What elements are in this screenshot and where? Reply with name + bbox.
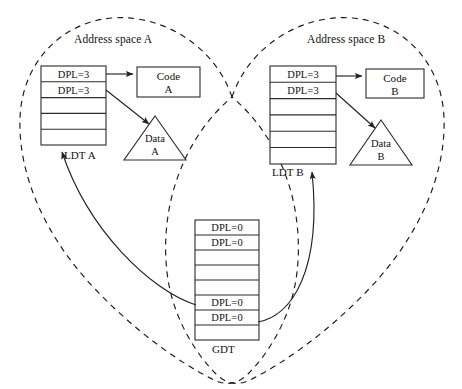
code-a-label-line2: A (137, 83, 200, 96)
gdt-row-1: DPL=0 (195, 237, 259, 248)
code-a-label-line1: Code (137, 70, 200, 83)
gdt-row-0: DPL=0 (195, 222, 259, 233)
arrow-gdt-ldtb (258, 172, 314, 322)
data-b-label-line2: B (351, 151, 411, 163)
address-space-b-title: Address space B (307, 33, 385, 45)
gdt-row-6: DPL=0 (195, 312, 259, 323)
data-a-label-line2: A (125, 146, 185, 158)
gdt-label: GDT (212, 344, 235, 356)
ldt-a-row-0: DPL=3 (41, 69, 106, 80)
code-b-label-line1: Code (366, 72, 424, 85)
ldt-b-label: LDT B (272, 167, 304, 179)
data-a-label-line1: Data (125, 133, 185, 145)
segmentation-diagram: Address space A Address space B DPL=3 DP… (0, 0, 462, 389)
ldt-a-label: LDT A (64, 150, 96, 162)
diagram-canvas (0, 0, 462, 389)
ldt-b-table (270, 66, 336, 164)
arrow-gdt-ldta (62, 152, 196, 305)
ldt-b-row-0: DPL=3 (270, 69, 336, 80)
address-space-a-title: Address space A (74, 33, 152, 45)
gdt-row-5: DPL=0 (195, 297, 259, 308)
ldt-a-row-1: DPL=3 (41, 85, 106, 96)
code-b-label-line2: B (366, 85, 424, 98)
ldt-b-row-1: DPL=3 (270, 85, 336, 96)
data-b-label-line1: Data (351, 138, 411, 150)
